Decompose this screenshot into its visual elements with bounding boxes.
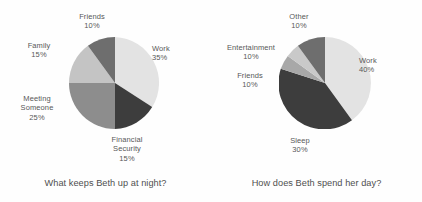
pie-label-work-name: Work xyxy=(359,56,407,65)
pie-label-sleep: Sleep 30% xyxy=(272,136,328,155)
pie-label-sleep-name: Sleep xyxy=(272,136,328,145)
pie-label-meeting-someone: Meeting Someone 25% xyxy=(4,94,70,122)
pie-label-friends-value: 10% xyxy=(222,80,278,89)
chart-caption-left: What keeps Beth up at night? xyxy=(0,178,211,188)
pie-label-other-value: 10% xyxy=(271,21,327,30)
pie-label-other-name: Other xyxy=(271,12,327,21)
pie-chart-right-svg xyxy=(279,37,371,129)
pie-label-financial-security-value: 15% xyxy=(96,154,158,163)
pie-chart-left xyxy=(69,37,161,129)
pie-label-family-name: Family xyxy=(12,41,66,50)
pie-label-meeting-someone-name: Meeting xyxy=(4,94,70,103)
pie-label-family-value: 15% xyxy=(12,50,66,59)
pie-label-friends-name: Friends xyxy=(62,12,122,21)
pie-label-work-name: Work xyxy=(152,44,200,53)
pie-label-friends-value: 10% xyxy=(62,21,122,30)
pie-label-work: Work 35% xyxy=(152,44,200,63)
pie-label-financial-security-name: Financial xyxy=(96,135,158,144)
pie-label-friends: Friends 10% xyxy=(62,12,122,31)
pie-label-financial-security-name2: Security xyxy=(96,144,158,153)
chart-panel-right: Other 10% Entertainment 10% Friends 10% … xyxy=(211,0,422,202)
chart-caption-right: How does Beth spend her day? xyxy=(211,178,422,188)
pie-chart-left-svg xyxy=(69,37,161,129)
pie-label-entertainment: Entertainment 10% xyxy=(212,43,290,62)
pie-label-meeting-someone-name2: Someone xyxy=(4,103,70,112)
pie-label-work: Work 40% xyxy=(359,56,407,75)
pie-label-meeting-someone-value: 25% xyxy=(4,113,70,122)
pie-label-financial-security: Financial Security 15% xyxy=(96,135,158,163)
pie-label-sleep-value: 30% xyxy=(272,145,328,154)
pie-slice-meeting-someone xyxy=(69,83,115,129)
pie-label-work-value: 40% xyxy=(359,65,407,74)
pie-label-friends: Friends 10% xyxy=(222,71,278,90)
pie-label-other: Other 10% xyxy=(271,12,327,31)
pie-chart-right xyxy=(279,37,371,129)
pie-label-friends-name: Friends xyxy=(222,71,278,80)
pie-label-entertainment-value: 10% xyxy=(212,52,290,61)
figure-page: Friends 10% Family 15% Meeting Someone 2… xyxy=(0,0,422,202)
pie-label-entertainment-name: Entertainment xyxy=(212,43,290,52)
pie-label-family: Family 15% xyxy=(12,41,66,60)
pie-label-work-value: 35% xyxy=(152,53,200,62)
chart-panel-left: Friends 10% Family 15% Meeting Someone 2… xyxy=(0,0,211,202)
